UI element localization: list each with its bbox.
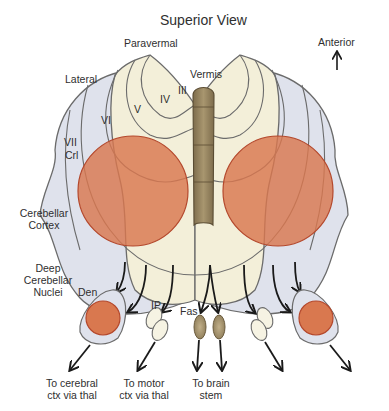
vermis <box>193 88 214 226</box>
lobule-v-label: V <box>134 103 141 115</box>
paravermal-label: Paravermal <box>124 37 178 49</box>
output-arrows <box>70 340 350 370</box>
anterior-label: Anterior <box>318 36 355 48</box>
deep-cerebellar-nuclei-label: Deep Cerebellar Nuclei <box>20 262 76 298</box>
crus-label: Crl <box>65 149 78 161</box>
cerebellar-cortex-label: Cerebellar Cortex <box>14 207 74 231</box>
output-label-motor: To motor ctx via thal <box>114 377 174 401</box>
highlight-circle-left <box>78 136 188 246</box>
lateral-label: Lateral <box>65 73 97 85</box>
dentate-label: Den <box>78 286 97 298</box>
lobule-vii-label: VII <box>64 136 77 148</box>
dentate-nucleus-right <box>292 290 338 344</box>
fastigial-nuclei <box>194 315 225 339</box>
output-label-cerebral: To cerebral ctx via thal <box>40 377 104 401</box>
lobule-vi-label: VI <box>101 114 111 126</box>
output-label-brainstem: To brain stem <box>186 377 236 401</box>
cerebellum-diagram <box>0 0 389 411</box>
vermis-label: Vermis <box>190 68 222 80</box>
lobule-iv-label: IV <box>160 93 170 105</box>
fastigial-label: Fas <box>180 305 198 317</box>
lobule-iii-label: III <box>178 84 187 96</box>
highlight-circle-right <box>223 136 333 246</box>
interposed-label: IP <box>151 299 161 311</box>
diagram-title: Superior View <box>160 12 247 28</box>
